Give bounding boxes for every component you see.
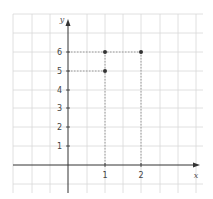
y-tick-label-2: 2 [57,123,62,132]
guide-lines [68,52,141,165]
x-axis-label: x [194,171,199,180]
grid [13,14,203,193]
y-tick-label-4: 4 [57,86,62,95]
point-1-6 [103,50,107,54]
y-tick-label-1: 1 [57,142,62,151]
y-tick-label-3: 3 [57,104,62,113]
point-2-6 [139,50,143,54]
y-tick-label-6: 6 [57,48,62,57]
y-tick-label-5: 5 [57,67,62,76]
y-axis-label: y [59,15,65,24]
x-tick-label-2: 2 [138,171,143,180]
x-axis-arrow-icon [193,163,200,168]
x-tick-label-1: 1 [102,171,107,180]
tick-marks [66,52,141,167]
coordinate-plane: 1 2 3 4 5 6 1 2 y x [0,0,213,199]
y-axis-arrow-icon [66,19,71,26]
point-1-5 [103,69,107,73]
